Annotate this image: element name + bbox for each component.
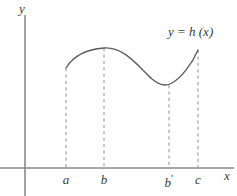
tick-label-b-prime: b′ [165,172,174,191]
prime-mark: ′ [171,172,173,184]
tick-label-b: b [101,172,108,188]
function-graph-figure: y x y = h (x) a b b′ c [0,0,237,196]
curve-equation-label: y = h (x) [168,24,213,40]
x-axis-label: x [224,168,230,184]
tick-label-c: c [195,172,201,188]
y-axis-label: y [19,1,25,17]
function-curve [66,48,198,85]
tick-label-a: a [63,172,70,188]
